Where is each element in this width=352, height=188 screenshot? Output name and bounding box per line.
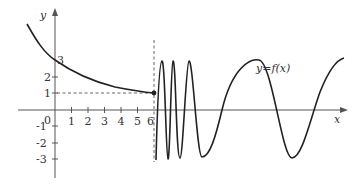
x-tick-label: 2 [85,115,92,128]
y-intercept-label: 3 [57,54,64,67]
x-tick-label: 5 [134,115,141,128]
x-tick-label: 6 [147,115,154,128]
y-axis-arrow-icon [52,8,58,16]
x-tick-label: 3 [101,115,108,128]
oscillating-curve [156,58,344,160]
endpoint-dot [152,91,157,96]
y-axis-label: y [39,9,47,22]
y-tick-label: -1 [36,120,47,133]
x-tick-label: 4 [118,115,125,128]
x-axis-label: x [334,113,341,126]
function-graph: y x 0 1 2 3 4 5 6 1 2 3 -1 -2 -3 y=f(x) [0,0,352,188]
y-tick-label: 1 [44,87,51,100]
y-tick-label: 2 [44,71,51,84]
function-label: y=f(x) [255,62,290,75]
y-tick-label: -2 [36,137,47,150]
x-tick-label: 1 [68,115,75,128]
x-axis-arrow-icon [340,107,348,113]
y-tick-label: -3 [36,153,47,166]
